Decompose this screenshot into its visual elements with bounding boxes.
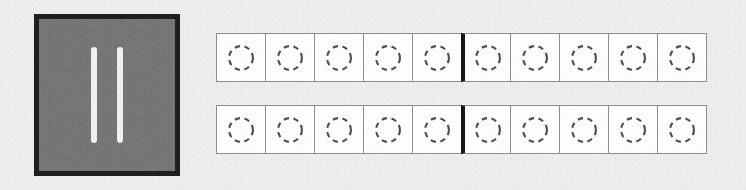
screen-root <box>0 0 746 190</box>
dashed-circle-icon <box>422 115 452 145</box>
slot-cell-r2c5[interactable] <box>412 105 462 154</box>
slot-cell-r2c1[interactable] <box>216 105 266 154</box>
dashed-circle-icon <box>226 43 256 73</box>
slot-cell-r1c7[interactable] <box>510 33 560 82</box>
slot-cell-r1c2[interactable] <box>265 33 315 82</box>
slot-cell-r1c6[interactable] <box>461 33 511 82</box>
dashed-circle-icon <box>373 43 403 73</box>
dashed-circle-icon <box>275 115 305 145</box>
slot-cell-r2c7[interactable] <box>510 105 560 154</box>
slot-cell-r1c8[interactable] <box>559 33 609 82</box>
dashed-circle-icon <box>422 43 452 73</box>
dashed-circle-icon <box>275 43 305 73</box>
dashed-circle-icon <box>667 115 697 145</box>
slot-cell-r1c5[interactable] <box>412 33 462 82</box>
dashed-circle-icon <box>373 115 403 145</box>
dashed-circle-icon <box>618 43 648 73</box>
slot-cell-r1c1[interactable] <box>216 33 266 82</box>
slot-cell-r2c6[interactable] <box>461 105 511 154</box>
dashed-circle-icon <box>473 43 503 73</box>
pause-bar-left <box>91 47 97 143</box>
slot-cell-r2c8[interactable] <box>559 105 609 154</box>
slot-cell-r1c10[interactable] <box>657 33 707 82</box>
dashed-circle-icon <box>324 115 354 145</box>
slot-cell-r1c4[interactable] <box>363 33 413 82</box>
slot-cell-r2c10[interactable] <box>657 105 707 154</box>
slot-cell-r2c4[interactable] <box>363 105 413 154</box>
dashed-circle-icon <box>569 43 599 73</box>
dashed-circle-icon <box>520 43 550 73</box>
dashed-circle-icon <box>473 115 503 145</box>
dashed-circle-icon <box>324 43 354 73</box>
pause-bar-right <box>117 47 123 143</box>
slot-cell-r2c2[interactable] <box>265 105 315 154</box>
dashed-circle-icon <box>667 43 697 73</box>
slot-cell-r2c3[interactable] <box>314 105 364 154</box>
dashed-circle-icon <box>226 115 256 145</box>
slot-cell-r2c9[interactable] <box>608 105 658 154</box>
dashed-circle-icon <box>569 115 599 145</box>
slot-board <box>216 33 722 154</box>
pause-indicator-panel[interactable] <box>34 14 180 176</box>
slot-row-2 <box>216 105 722 154</box>
dashed-circle-icon <box>618 115 648 145</box>
slot-cell-r1c9[interactable] <box>608 33 658 82</box>
dashed-circle-icon <box>520 115 550 145</box>
slot-row-1 <box>216 33 722 82</box>
slot-cell-r1c3[interactable] <box>314 33 364 82</box>
